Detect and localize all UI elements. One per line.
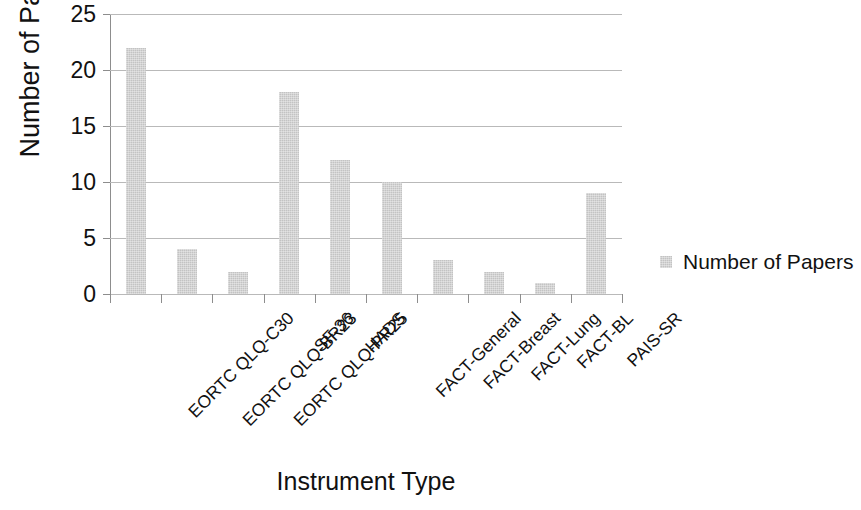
- x-tick-label: HADS: [362, 309, 409, 356]
- chart-legend: Number of Papers: [660, 250, 853, 274]
- bar: [279, 92, 299, 294]
- gridline: [110, 14, 622, 15]
- y-tick-label: 0: [83, 283, 96, 306]
- x-axis-title: Instrument Type: [110, 466, 622, 496]
- y-tick-mark: [103, 70, 110, 71]
- legend-entry-label: Number of Papers: [683, 250, 853, 274]
- y-tick-mark: [103, 238, 110, 239]
- x-tick-label: EORTC QLQ-C30: [185, 309, 297, 421]
- y-tick-mark: [103, 14, 110, 15]
- y-tick-label: 10: [70, 171, 96, 194]
- y-tick-mark: [103, 294, 110, 295]
- gridline: [110, 70, 622, 71]
- bar: [586, 193, 606, 294]
- y-tick-label: 15: [70, 115, 96, 138]
- legend-swatch-icon: [660, 256, 672, 268]
- x-axis-tick-labels: EORTC QLQ-C30EORTC QLQ-BR23EORTC QLQ-PR2…: [110, 294, 670, 454]
- bar: [177, 249, 197, 294]
- y-tick-label: 25: [70, 3, 96, 26]
- bar: [484, 272, 504, 294]
- bar: [228, 272, 248, 294]
- bar: [535, 283, 555, 294]
- gridline: [110, 126, 622, 127]
- plot-area: 0510152025: [110, 14, 622, 294]
- bar: [433, 260, 453, 294]
- bar: [126, 48, 146, 294]
- y-axis-line: [110, 14, 111, 295]
- y-tick-label: 20: [70, 59, 96, 82]
- y-tick-mark: [103, 182, 110, 183]
- bar-chart-figure: Number of Papers 0510152025 EORTC QLQ-C3…: [0, 0, 861, 510]
- bar: [382, 182, 402, 294]
- gridline: [110, 182, 622, 183]
- y-axis-title: Number of Papers: [8, 0, 52, 198]
- bar: [330, 160, 350, 294]
- y-tick-label: 5: [83, 227, 96, 250]
- y-tick-mark: [103, 126, 110, 127]
- gridline: [110, 238, 622, 239]
